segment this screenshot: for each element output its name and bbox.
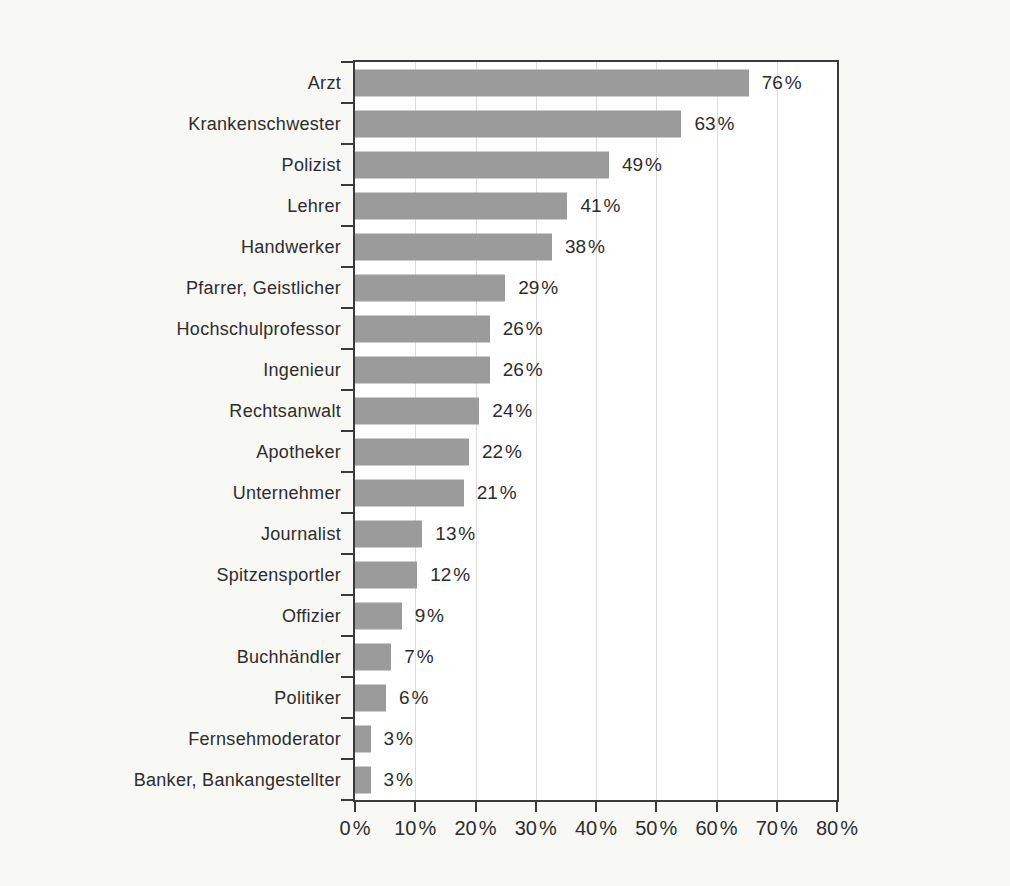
y-axis-tick bbox=[341, 143, 355, 145]
y-axis-tick bbox=[341, 635, 355, 637]
category-label: Buchhändler bbox=[237, 646, 341, 667]
x-axis-tick bbox=[414, 800, 416, 812]
value-label: 3 % bbox=[384, 728, 413, 750]
x-axis-tick bbox=[475, 800, 477, 812]
bar-row: Offizier 9 % bbox=[355, 595, 837, 636]
value-label: 24 % bbox=[492, 400, 532, 422]
y-axis-tick bbox=[341, 799, 355, 801]
category-label: Polizist bbox=[282, 154, 341, 175]
bar-row: Polizist 49 % bbox=[355, 144, 837, 185]
value-label: 12 % bbox=[430, 564, 470, 586]
y-axis-tick bbox=[341, 471, 355, 473]
value-label: 41 % bbox=[580, 195, 620, 217]
y-axis-tick bbox=[341, 61, 355, 63]
bar bbox=[355, 274, 505, 301]
bar bbox=[355, 479, 464, 506]
y-axis-tick bbox=[341, 184, 355, 186]
y-axis-tick bbox=[341, 553, 355, 555]
x-axis-tick bbox=[655, 800, 657, 812]
chart-plot-area: Arzt 76 % Krankenschwester 63 % Polizist… bbox=[353, 60, 839, 802]
bar-row: Politiker 6 % bbox=[355, 677, 837, 718]
x-axis-tick bbox=[776, 800, 778, 812]
bar bbox=[355, 684, 386, 711]
bar bbox=[355, 110, 681, 137]
category-label: Ingenieur bbox=[263, 359, 341, 380]
bar bbox=[355, 315, 490, 342]
category-label: Fernsehmoderator bbox=[188, 728, 341, 749]
bar bbox=[355, 725, 371, 752]
bar-rows-container: Arzt 76 % Krankenschwester 63 % Polizist… bbox=[355, 62, 837, 800]
y-axis-tick bbox=[341, 389, 355, 391]
category-label: Offizier bbox=[282, 605, 341, 626]
x-axis-tick bbox=[836, 800, 838, 812]
bar bbox=[355, 438, 469, 465]
bar-row: Fernsehmoderator 3 % bbox=[355, 718, 837, 759]
y-axis-tick bbox=[341, 266, 355, 268]
y-axis-tick bbox=[341, 512, 355, 514]
bar bbox=[355, 520, 422, 547]
value-label: 76 % bbox=[762, 72, 802, 94]
value-label: 13 % bbox=[435, 523, 475, 545]
value-label: 21 % bbox=[477, 482, 517, 504]
category-label: Hochschulprofessor bbox=[177, 318, 341, 339]
x-axis-tick bbox=[716, 800, 718, 812]
value-label: 9 % bbox=[415, 605, 444, 627]
bar bbox=[355, 397, 479, 424]
bar-row: Arzt 76 % bbox=[355, 62, 837, 103]
category-label: Arzt bbox=[308, 72, 341, 93]
category-label: Spitzensportler bbox=[216, 564, 341, 585]
y-axis-tick bbox=[341, 307, 355, 309]
bar-row: Pfarrer, Geistlicher 29 % bbox=[355, 267, 837, 308]
y-axis-tick bbox=[341, 430, 355, 432]
bar-row: Rechtsanwalt 24 % bbox=[355, 390, 837, 431]
category-label: Krankenschwester bbox=[188, 113, 341, 134]
bar bbox=[355, 69, 749, 96]
category-label: Handwerker bbox=[241, 236, 341, 257]
value-label: 7 % bbox=[404, 646, 433, 668]
value-label: 38 % bbox=[565, 236, 605, 258]
y-axis-tick bbox=[341, 758, 355, 760]
bar-row: Journalist 13 % bbox=[355, 513, 837, 554]
y-axis-tick bbox=[341, 225, 355, 227]
value-label: 29 % bbox=[518, 277, 558, 299]
page: Arzt 76 % Krankenschwester 63 % Polizist… bbox=[0, 0, 1010, 886]
bar-row: Unternehmer 21 % bbox=[355, 472, 837, 513]
bar bbox=[355, 643, 391, 670]
y-axis-tick bbox=[341, 102, 355, 104]
x-tick-label: 80 % bbox=[802, 817, 872, 840]
category-label: Unternehmer bbox=[233, 482, 341, 503]
value-label: 63 % bbox=[694, 113, 734, 135]
category-label: Pfarrer, Geistlicher bbox=[186, 277, 341, 298]
bar-row: Buchhändler 7 % bbox=[355, 636, 837, 677]
bar bbox=[355, 766, 371, 793]
bar bbox=[355, 356, 490, 383]
y-axis-tick bbox=[341, 348, 355, 350]
bar bbox=[355, 192, 567, 219]
bar bbox=[355, 233, 552, 260]
x-axis-tick bbox=[354, 800, 356, 812]
value-label: 3 % bbox=[384, 769, 413, 791]
bar-row: Ingenieur 26 % bbox=[355, 349, 837, 390]
category-label: Lehrer bbox=[287, 195, 341, 216]
bar-row: Handwerker 38 % bbox=[355, 226, 837, 267]
value-label: 6 % bbox=[399, 687, 428, 709]
category-label: Apotheker bbox=[256, 441, 341, 462]
category-label: Politiker bbox=[274, 687, 341, 708]
y-axis-tick bbox=[341, 717, 355, 719]
x-axis-tick bbox=[535, 800, 537, 812]
value-label: 49 % bbox=[622, 154, 662, 176]
bar-row: Banker, Bankangestellter 3 % bbox=[355, 759, 837, 800]
bar-row: Krankenschwester 63 % bbox=[355, 103, 837, 144]
y-axis-tick bbox=[341, 594, 355, 596]
bar bbox=[355, 602, 402, 629]
bar-row: Apotheker 22 % bbox=[355, 431, 837, 472]
value-label: 26 % bbox=[503, 359, 543, 381]
value-label: 22 % bbox=[482, 441, 522, 463]
y-axis-tick bbox=[341, 676, 355, 678]
x-axis-tick bbox=[595, 800, 597, 812]
bar-row: Hochschulprofessor 26 % bbox=[355, 308, 837, 349]
bar bbox=[355, 151, 609, 178]
bar bbox=[355, 561, 417, 588]
bar-row: Spitzensportler 12 % bbox=[355, 554, 837, 595]
category-label: Journalist bbox=[261, 523, 341, 544]
